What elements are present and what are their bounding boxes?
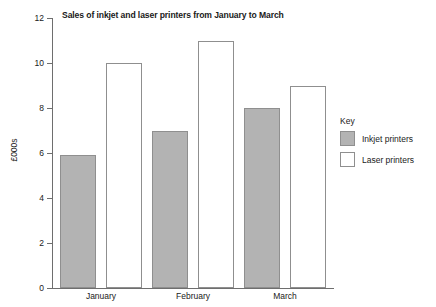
y-axis-tick-label: 8 [24, 104, 44, 113]
bar-march-laser [290, 86, 326, 289]
bar-january-inkjet [60, 155, 96, 288]
bars-layer [52, 18, 334, 288]
legend-title: Key [340, 116, 436, 126]
x-axis-label-march: March [240, 292, 330, 301]
legend-item-label: Laser printers [362, 155, 414, 165]
legend-swatch-icon [340, 152, 355, 167]
legend-item-label: Inkjet printers [362, 134, 413, 144]
y-axis-tick-label: 0 [24, 284, 44, 293]
bar-february-laser [198, 41, 234, 289]
y-axis-tick-label: 12 [24, 14, 44, 23]
bar-march-inkjet [244, 108, 280, 288]
x-axis-label-january: January [56, 292, 146, 301]
y-axis-tick [47, 288, 52, 289]
x-axis-label-february: February [148, 292, 238, 301]
y-axis-tick-label: 4 [24, 194, 44, 203]
legend-item: Inkjet printers [340, 131, 436, 146]
bar-chart: Sales of inkjet and laser printers from … [0, 0, 436, 307]
legend: Key Inkjet printersLaser printers [340, 116, 436, 173]
legend-swatch-icon [340, 131, 355, 146]
legend-item: Laser printers [340, 152, 436, 167]
bar-january-laser [106, 63, 142, 288]
y-axis-tick-label: 2 [24, 239, 44, 248]
y-axis-title: £000s [9, 120, 19, 180]
legend-entries: Inkjet printersLaser printers [340, 131, 436, 167]
y-axis-tick-label: 10 [24, 59, 44, 68]
y-axis-tick-label: 6 [24, 149, 44, 158]
x-axis-line [52, 288, 334, 289]
bar-february-inkjet [152, 131, 188, 289]
